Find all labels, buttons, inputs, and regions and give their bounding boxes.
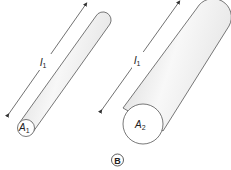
panel-label-text: B (114, 156, 121, 166)
panel-label: B (112, 154, 124, 166)
diagram-canvas: l1 A1 l1 A2 B (0, 0, 231, 170)
cylinder-1 (18, 12, 112, 137)
